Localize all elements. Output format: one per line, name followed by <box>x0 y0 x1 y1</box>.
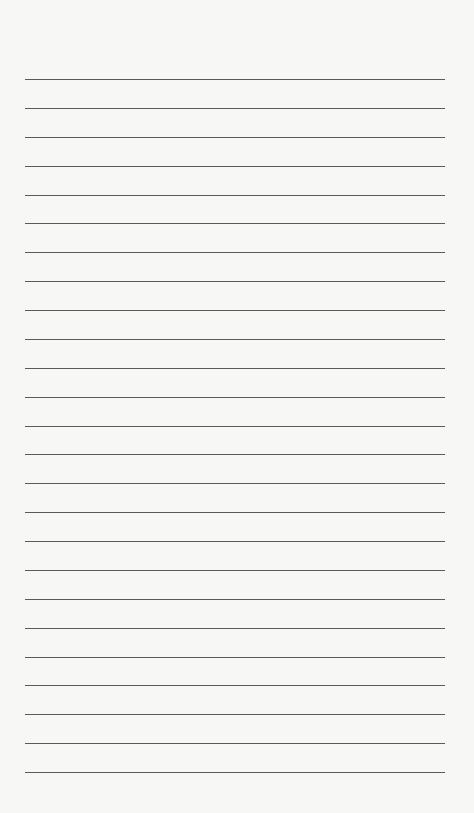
ruled-line <box>25 657 445 658</box>
ruled-line <box>25 368 445 369</box>
ruled-line <box>25 166 445 167</box>
ruled-line <box>25 281 445 282</box>
ruled-line <box>25 512 445 513</box>
ruled-line <box>25 714 445 715</box>
ruled-line <box>25 483 445 484</box>
ruled-line <box>25 541 445 542</box>
ruled-line <box>25 599 445 600</box>
lined-paper-sheet <box>0 0 474 813</box>
ruled-line <box>25 454 445 455</box>
ruled-line <box>25 426 445 427</box>
ruled-line <box>25 628 445 629</box>
ruled-line <box>25 108 445 109</box>
ruled-line <box>25 772 445 773</box>
ruled-line <box>25 743 445 744</box>
ruled-line <box>25 195 445 196</box>
ruled-line <box>25 339 445 340</box>
ruled-line <box>25 397 445 398</box>
ruled-line <box>25 79 445 80</box>
ruled-line <box>25 223 445 224</box>
ruled-line <box>25 570 445 571</box>
ruled-line <box>25 137 445 138</box>
ruled-line <box>25 685 445 686</box>
ruled-line <box>25 310 445 311</box>
ruled-line <box>25 252 445 253</box>
